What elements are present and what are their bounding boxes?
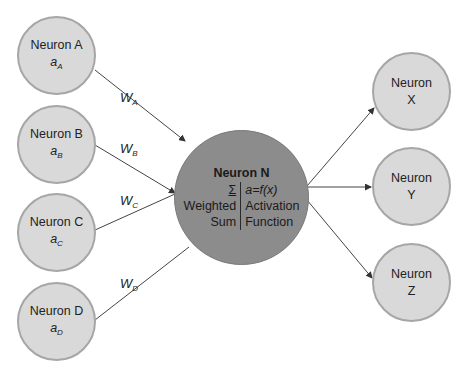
- input-neuron-b: Neuron B aB: [17, 105, 96, 184]
- activation-label: aC: [50, 231, 63, 252]
- activation-label: Activation: [245, 198, 299, 214]
- activation-formula: a=f(x): [245, 182, 299, 198]
- activation-label: aD: [50, 320, 63, 341]
- weight-label-a: WA: [120, 90, 138, 107]
- neuron-label: Neuron B: [30, 126, 83, 143]
- weighted-sum-column: Σ Weighted Sum: [184, 182, 242, 230]
- function-label: Function: [245, 214, 299, 230]
- neuron-id: Y: [407, 187, 415, 204]
- edge-n-to-z: [307, 200, 372, 278]
- neuron-label: Neuron A: [30, 37, 82, 54]
- neuron-label: Neuron D: [30, 303, 84, 320]
- edge-a-to-n: [95, 70, 185, 141]
- weight-label-c: WC: [120, 193, 138, 210]
- neuron-label: Neuron: [391, 170, 432, 187]
- input-neuron-c: Neuron C aC: [17, 193, 96, 272]
- weight-label-d: WD: [120, 276, 138, 293]
- neuron-label: Neuron: [391, 75, 432, 92]
- output-neuron-x: Neuron X: [372, 52, 451, 131]
- edge-d-to-n: [95, 247, 189, 320]
- weighted-label: Weighted: [184, 198, 237, 214]
- input-neuron-d: Neuron D aD: [17, 282, 96, 361]
- central-neuron-title: Neuron N: [213, 166, 269, 180]
- neuron-id: Z: [408, 283, 416, 300]
- neuron-label: Neuron C: [30, 214, 84, 231]
- output-neuron-y: Neuron Y: [372, 147, 451, 226]
- neuron-id: X: [407, 92, 415, 109]
- activation-label: aB: [50, 143, 62, 164]
- central-neuron-body: Σ Weighted Sum a=f(x) Activation Functio…: [184, 182, 300, 230]
- sigma-icon: Σ: [184, 182, 237, 198]
- weight-label-b: WB: [120, 141, 138, 158]
- input-neuron-a: Neuron A aA: [17, 16, 96, 95]
- edge-n-to-x: [307, 108, 374, 186]
- central-neuron-n: Neuron N Σ Weighted Sum a=f(x) Activatio…: [174, 130, 309, 265]
- output-neuron-z: Neuron Z: [372, 243, 451, 322]
- activation-label: aA: [50, 54, 62, 75]
- sum-label: Sum: [184, 214, 237, 230]
- neuron-label: Neuron: [391, 266, 432, 283]
- neuron-diagram: Neuron A aA Neuron B aB Neuron C aC Neur…: [0, 0, 465, 376]
- activation-function-column: a=f(x) Activation Function: [241, 182, 299, 230]
